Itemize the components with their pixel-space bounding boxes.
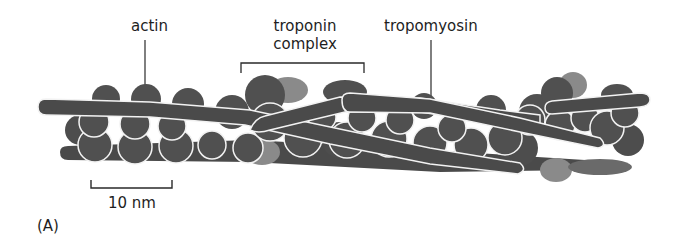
troponin-label-line1: troponin xyxy=(255,17,355,35)
scale-bar xyxy=(91,180,172,188)
panel-label: (A) xyxy=(37,217,59,235)
troponin-label-line2: complex xyxy=(255,35,355,53)
actin-label: actin xyxy=(131,17,168,35)
troponin-bracket xyxy=(241,63,364,73)
scale-bar-label: 10 nm xyxy=(108,194,156,212)
tropomyosin-label: tropomyosin xyxy=(384,17,478,35)
troponin-complex-label: troponin complex xyxy=(255,17,355,53)
filament-body xyxy=(38,72,650,182)
